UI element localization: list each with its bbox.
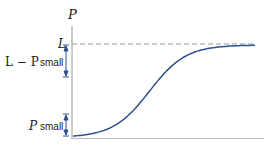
bottom-annotation-math: P — [28, 119, 38, 133]
asymptote-label: L — [57, 37, 66, 51]
logistic-curve — [73, 45, 255, 136]
chart-svg: P L L − P small P small — [0, 0, 265, 152]
y-axis-label: P — [67, 7, 77, 22]
logistic-chart: P L L − P small P small — [0, 0, 265, 152]
top-annotation-word: small — [40, 57, 63, 68]
bottom-double-arrow-icon — [63, 114, 69, 136]
top-annotation-math: L − P — [5, 55, 39, 69]
bottom-annotation-word: small — [40, 121, 63, 132]
